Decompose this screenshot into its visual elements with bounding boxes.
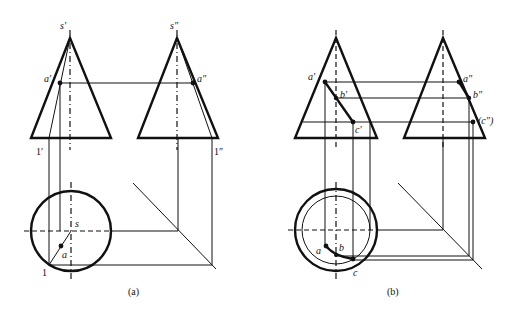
label-a-front: a′ bbox=[44, 73, 52, 84]
label-a-side: a″ bbox=[197, 73, 207, 84]
label-1-top: 1 bbox=[42, 267, 47, 278]
label-1-side: 1″ bbox=[214, 146, 223, 157]
label-a-top-b: a bbox=[316, 245, 321, 256]
point-b-top-b bbox=[334, 253, 338, 257]
point-a-side bbox=[191, 81, 196, 86]
caption-a: (a) bbox=[128, 286, 139, 298]
point-a-front bbox=[58, 81, 63, 86]
label-b-front-b: b′ bbox=[340, 89, 348, 100]
curve-ab-side bbox=[459, 82, 469, 98]
label-b-top-b: b bbox=[339, 242, 344, 253]
miter-line-a bbox=[133, 183, 216, 269]
label-b-side-b: b″ bbox=[473, 89, 483, 100]
point-c-side-b bbox=[471, 120, 476, 125]
point-a-front-b bbox=[323, 80, 328, 85]
figure-b: a′ b′ c′ a″ b″ (c″) a b c (b) bbox=[288, 30, 494, 298]
label-c-side-b: (c″) bbox=[478, 115, 494, 127]
label-c-front-b: c′ bbox=[355, 124, 362, 135]
cone-projection-diagram: s′ s″ a′ a″ 1′ 1″ s a 1 (a) bbox=[0, 0, 518, 313]
label-c-top-b: c bbox=[353, 267, 358, 278]
point-c-top-b bbox=[351, 257, 356, 262]
point-b-side-b bbox=[467, 96, 471, 100]
point-a-top-b bbox=[324, 244, 329, 249]
generatrix-s1-side bbox=[177, 38, 212, 138]
front-view-cone-a bbox=[31, 38, 111, 138]
point-a-top bbox=[59, 244, 64, 249]
label-1-front: 1′ bbox=[36, 146, 43, 157]
point-a-side-b bbox=[457, 80, 462, 85]
label-s-top: s bbox=[75, 218, 79, 229]
curve-abc-front bbox=[325, 82, 353, 122]
label-s-side: s″ bbox=[170, 20, 179, 31]
side-view-cone-a bbox=[138, 38, 218, 138]
label-s-front: s′ bbox=[60, 20, 67, 31]
caption-b: (b) bbox=[387, 286, 399, 298]
point-b-front-b bbox=[334, 96, 338, 100]
label-a-side-b: a″ bbox=[463, 73, 473, 84]
label-a-front-b: a′ bbox=[308, 71, 316, 82]
figure-a: s′ s″ a′ a″ 1′ 1″ s a 1 (a) bbox=[24, 20, 223, 298]
label-a-top: a bbox=[62, 249, 67, 260]
